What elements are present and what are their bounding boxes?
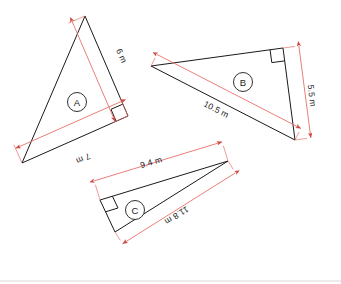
right-angle-marker-b xyxy=(270,50,285,63)
shapes-layer xyxy=(22,16,295,232)
dimension-label: 6 m xyxy=(114,47,129,65)
badge-letter: A xyxy=(74,97,81,108)
dimension-line xyxy=(16,101,122,148)
triangles-figure: 6 m7 m10.5 m5.5 m9.4 m11.8 m ABC xyxy=(0,0,341,284)
triangle-c xyxy=(100,161,228,232)
dimensions-layer: 6 m7 m10.5 m5.5 m9.4 m11.8 m xyxy=(14,16,318,244)
badge-letter: C xyxy=(132,205,139,216)
shape-badges-layer: ABC xyxy=(68,73,253,220)
shape-badge-b: B xyxy=(234,73,253,92)
dimension-label: 9.4 m xyxy=(139,154,163,170)
dimension-b-side: 5.5 m xyxy=(283,46,318,140)
right-angle-marker-c xyxy=(106,196,119,212)
triangle-b xyxy=(151,48,295,140)
diagram-canvas: 6 m7 m10.5 m5.5 m9.4 m11.8 m ABC xyxy=(0,0,341,284)
triangle-a xyxy=(22,16,128,163)
badge-letter: B xyxy=(240,77,246,88)
dimension-c-top: 9.4 m xyxy=(94,142,228,200)
dimension-line xyxy=(157,54,301,128)
dimension-label: 7 m xyxy=(74,151,92,166)
dimension-label: 5.5 m xyxy=(306,84,319,107)
shape-badge-a: A xyxy=(68,93,87,112)
shape-badge-c: C xyxy=(126,201,145,220)
dimension-label: 10.5 m xyxy=(202,99,231,120)
dimension-b-hypotenuse: 10.5 m xyxy=(151,54,301,140)
